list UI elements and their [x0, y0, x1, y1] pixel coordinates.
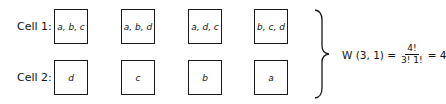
cell1-box-1: a, b, c [54, 9, 88, 44]
formula-fraction: 4! 3! 1! [399, 43, 425, 66]
cell1-box-3: a, d, c [188, 9, 222, 44]
combinatorics-formula: W (3, 1) = 4! 3! 1! = 4 [342, 43, 446, 66]
cell2-box-3: b [188, 60, 222, 95]
cell1-box-4: b, c, d [254, 9, 288, 44]
formula-lhs: W (3, 1) = [342, 49, 396, 61]
formula-numerator: 4! [405, 43, 418, 55]
cell2-box-2: c [121, 60, 155, 95]
cell2-box-4: a [254, 60, 288, 95]
row-label-cell-2: Cell 2: [17, 71, 52, 84]
formula-denominator: 3! 1! [399, 55, 425, 66]
right-brace-icon [312, 8, 336, 100]
formula-rhs: = 4 [428, 49, 446, 61]
cell2-box-1: d [54, 60, 88, 95]
row-label-cell-1: Cell 1: [17, 20, 52, 33]
cell1-box-2: a, b, d [121, 9, 155, 44]
